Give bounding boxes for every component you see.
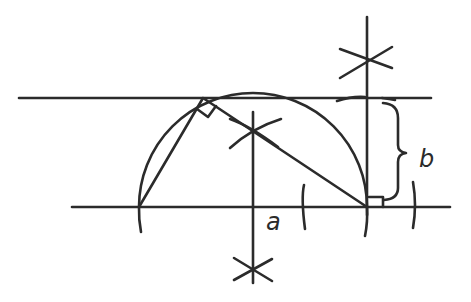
right-chord (203, 98, 367, 207)
brace-b (383, 103, 406, 200)
right-angle-mark-apex (197, 106, 216, 117)
left-chord (139, 98, 203, 207)
label-a: a (266, 208, 281, 236)
label-b: b (419, 145, 434, 173)
right-angle-mark-base (369, 197, 383, 207)
arc-tick-base-right (413, 182, 415, 228)
geometry-diagram: a b (0, 0, 471, 302)
